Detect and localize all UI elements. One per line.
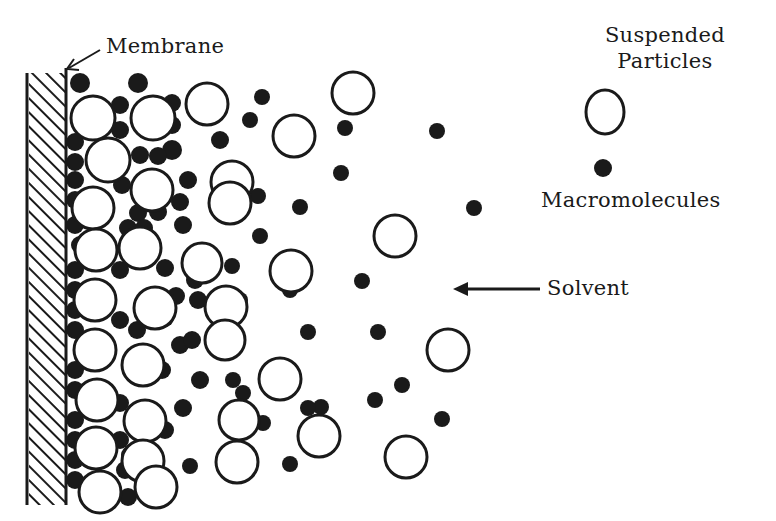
solvent-label: Solvent xyxy=(547,275,629,301)
macromolecules-label: Macromolecules xyxy=(541,187,721,213)
suspended-particle xyxy=(79,471,121,513)
macromolecule-dot xyxy=(333,165,349,181)
suspended-particle xyxy=(75,229,117,271)
suspended-particle xyxy=(134,287,176,329)
macromolecule-dot xyxy=(174,216,192,234)
macromolecule-dot xyxy=(224,258,240,274)
suspended-particle xyxy=(76,379,118,421)
suspended-particles-label: Suspended Particles xyxy=(580,22,750,74)
legend-open-circle-icon xyxy=(586,90,624,134)
suspended-particle xyxy=(219,400,259,440)
macromolecule-dot xyxy=(174,399,192,417)
macromolecule-dot xyxy=(183,331,201,349)
legend-symbols xyxy=(586,90,624,177)
suspended-particle xyxy=(298,415,340,457)
suspended-particle xyxy=(427,329,469,371)
macromolecule-dot xyxy=(370,324,386,340)
macromolecule-dot xyxy=(149,147,167,165)
suspended-particle xyxy=(75,427,117,469)
macromolecule-dot xyxy=(128,73,148,93)
membrane-pointer-arrow xyxy=(67,50,100,70)
macromolecule-dot xyxy=(337,120,353,136)
macromolecule-dot xyxy=(225,372,241,388)
membrane-hatched-body xyxy=(29,73,65,505)
suspended-particle xyxy=(186,83,228,125)
suspended-particle xyxy=(71,96,115,140)
suspended-particle xyxy=(374,215,416,257)
macromolecule-dot xyxy=(111,311,129,329)
macromolecule-dot xyxy=(66,171,84,189)
suspended-particle xyxy=(119,227,161,269)
macromolecule-dot xyxy=(394,377,410,393)
macromolecule-dot xyxy=(367,392,383,408)
suspended-particle xyxy=(124,400,166,442)
macromolecule-dot xyxy=(191,371,209,389)
suspended-particle xyxy=(131,169,173,211)
macromolecule-dot xyxy=(252,228,268,244)
macromolecule-dot xyxy=(354,273,370,289)
macromolecule-dot xyxy=(254,89,270,105)
suspended-particle xyxy=(209,182,251,224)
macromolecule-dot xyxy=(292,199,308,215)
solvent-flow-arrow xyxy=(453,282,540,296)
concentration-polarization-diagram xyxy=(0,0,776,521)
macromolecule-dot xyxy=(131,146,149,164)
suspended-particle xyxy=(74,329,116,371)
suspended-particles-label-line1: Suspended xyxy=(580,22,750,48)
macromolecule-dot xyxy=(466,200,482,216)
suspended-particle xyxy=(72,187,114,229)
suspended-particle xyxy=(385,436,427,478)
suspended-particle xyxy=(135,466,177,508)
suspended-particle xyxy=(74,279,116,321)
suspended-particle xyxy=(270,250,312,292)
macromolecule-dot xyxy=(182,458,198,474)
macromolecule-dot xyxy=(179,171,197,189)
suspended-particle xyxy=(205,320,245,360)
suspended-particle xyxy=(259,358,301,400)
suspended-particle xyxy=(273,115,315,157)
membrane xyxy=(27,68,66,505)
suspended-particle xyxy=(332,72,374,114)
legend-filled-dot-icon xyxy=(594,159,612,177)
membrane-label: Membrane xyxy=(106,33,224,59)
suspended-particle xyxy=(131,96,175,140)
macromolecule-dot xyxy=(429,123,445,139)
macromolecule-dot xyxy=(282,456,298,472)
macromolecule-dot xyxy=(211,131,229,149)
suspended-particles-label-line2: Particles xyxy=(580,48,750,74)
macromolecule-dot xyxy=(300,324,316,340)
macromolecule-dot xyxy=(66,153,84,171)
suspended-particles-group xyxy=(71,72,469,513)
suspended-particle xyxy=(182,243,222,283)
macromolecule-dot xyxy=(156,259,174,277)
macromolecule-dot xyxy=(242,112,258,128)
suspended-particle xyxy=(122,344,164,386)
suspended-particle xyxy=(216,441,258,483)
macromolecule-dot xyxy=(434,411,450,427)
suspended-particle xyxy=(86,138,130,182)
macromolecule-dot xyxy=(70,73,90,93)
macromolecule-dot xyxy=(300,400,316,416)
